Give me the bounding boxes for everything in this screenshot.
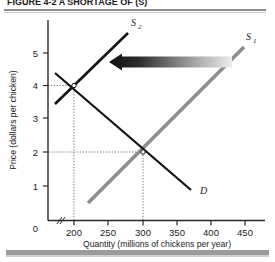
curve-label-s1: S 1 [246,31,257,45]
x-tick-label-350: 350 [169,227,185,238]
curve-label-s1-letter: S [246,31,251,42]
curve-label-s2-subscript: 2 [138,23,142,31]
x-axis-title: Quantity (millions of chickens per year) [83,239,231,249]
curve-label-s2-letter: S [131,17,136,28]
y-axis-title: Price (dollars per chicken) [8,70,18,169]
y-tick-label-5: 5 [33,48,38,59]
x-tick-label-200: 200 [66,227,82,238]
y-tick-label-1: 1 [33,181,38,192]
figure-container: FIGURE 4-2 A SHORTAGE OF (S) [0,0,275,262]
curve-label-d: D [199,185,208,196]
curve-label-d-letter: D [199,185,208,196]
y-tick-label-0: 0 [33,223,38,234]
equilibrium-point-new [72,83,76,87]
x-axis-ticks [74,221,245,226]
curve-label-s1-subscript: 1 [253,37,257,45]
y-axis-ticks [43,53,48,186]
x-axis-tick-labels: 200 250 300 350 400 450 [66,227,253,238]
curve-label-s2: S 2 [131,17,142,31]
y-axis-tick-labels: 5 4 3 2 1 0 [33,48,38,235]
y-tick-label-2: 2 [33,147,38,158]
x-tick-label-450: 450 [237,227,253,238]
equilibrium-point-original [141,150,145,154]
y-tick-label-3: 3 [33,113,38,124]
curve-d [55,73,191,190]
y-tick-label-4: 4 [33,80,38,91]
curve-s2 [55,33,128,104]
x-tick-label-300: 300 [135,227,151,238]
x-tick-label-250: 250 [100,227,116,238]
curve-s1 [88,47,244,203]
bottom-decorative-bar-shadow [6,255,269,257]
axes [48,20,265,224]
x-tick-label-400: 400 [203,227,219,238]
shift-arrow [109,54,232,71]
supply-demand-chart: 5 4 3 2 1 0 200 250 300 350 400 450 Quan… [0,0,275,262]
guide-lines [48,86,143,221]
